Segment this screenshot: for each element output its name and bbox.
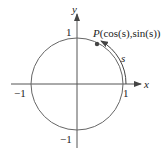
- y-axis-label: y: [71, 3, 77, 15]
- point-p: [95, 42, 99, 46]
- point-p-coords: (cos(s),sin(s)): [100, 27, 161, 40]
- tick-x-pos: 1: [123, 87, 129, 99]
- tick-y-pos: 1: [66, 26, 72, 38]
- point-p-label: P(cos(s),sin(s)): [92, 27, 161, 40]
- arc-label-s: s: [121, 52, 125, 64]
- tick-x-neg: −1: [14, 87, 26, 99]
- tick-y-neg: −1: [60, 133, 72, 145]
- x-axis-label: x: [143, 78, 149, 90]
- unit-circle-diagram: y x 1 −1 −1 1 s P(cos(s),sin(s)): [0, 0, 165, 156]
